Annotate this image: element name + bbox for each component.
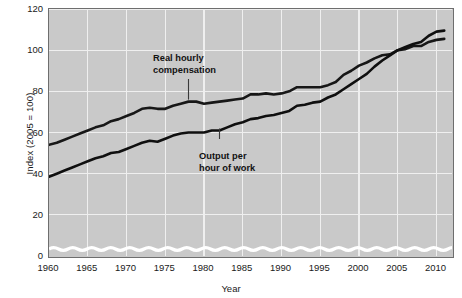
x-tick-label: 1985: [231, 262, 252, 273]
series-annotation-2: Output perhour of work: [199, 151, 255, 174]
x-tick-label: 1990: [270, 262, 291, 273]
x-tick-label: 1980: [192, 262, 213, 273]
annotation-line-2: hour of work: [199, 163, 255, 175]
y-tick-label: 80: [0, 85, 48, 96]
axis-break-wave: [49, 248, 452, 251]
x-tick-label: 1960: [37, 262, 58, 273]
x-tick-label: 1965: [76, 262, 97, 273]
annotation-line-2: compensation: [153, 65, 216, 77]
gridlines: [49, 9, 452, 256]
x-tick-label: 1970: [115, 262, 136, 273]
axis-break-wave-path: [49, 248, 452, 251]
annotation-line-1: Output per: [199, 151, 255, 163]
y-tick-label: 120: [0, 3, 48, 14]
x-tick-label: 1975: [154, 262, 175, 273]
x-axis-title: Year: [0, 283, 462, 294]
x-tick-label: 2010: [425, 262, 446, 273]
plot-area: Real hourlycompensationOutput perhour of…: [48, 8, 454, 258]
y-tick-label: 0: [0, 250, 48, 261]
plot-svg: [49, 9, 452, 256]
y-tick-label: 60: [0, 126, 48, 137]
y-tick-label: 40: [0, 167, 48, 178]
y-tick-label: 20: [0, 208, 48, 219]
x-tick-label: 2000: [347, 262, 368, 273]
x-tick-label: 1995: [309, 262, 330, 273]
chart-figure: Index (2005 = 100) Year 020406080100120 …: [0, 0, 462, 298]
series-annotation-1: Real hourlycompensation: [153, 53, 216, 76]
y-tick-label: 100: [0, 44, 48, 55]
annotation-line-1: Real hourly: [153, 53, 216, 65]
x-tick-label: 2005: [386, 262, 407, 273]
